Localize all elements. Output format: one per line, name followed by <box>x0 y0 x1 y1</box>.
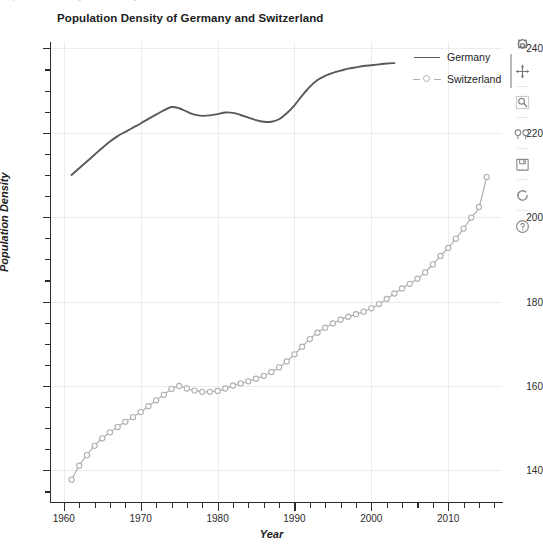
series-marker <box>430 262 435 267</box>
modebar-separator <box>517 179 528 180</box>
x-axis-line <box>50 502 503 503</box>
clipped-title-ghost: Population Density of Germany and Switze… <box>0 0 543 9</box>
y-tick-minor <box>45 259 51 260</box>
series-marker <box>130 415 135 420</box>
x-tick-major <box>218 503 219 511</box>
x-tick-label: 2010 <box>437 513 459 524</box>
series-marker <box>476 204 481 209</box>
x-tick-minor <box>417 503 418 508</box>
data-layer <box>50 42 502 502</box>
y-tick-minor <box>45 196 51 197</box>
series-marker <box>392 291 397 296</box>
help-icon[interactable] <box>510 214 534 238</box>
zoom-box-icon[interactable] <box>510 90 534 114</box>
series-line <box>72 177 487 480</box>
save-icon[interactable] <box>510 152 534 176</box>
series-marker <box>461 226 466 231</box>
chart-title: Population Density of Germany and Switze… <box>57 12 323 24</box>
clipped-title-ghost-text: Population Density of Germany and Switze… <box>0 0 212 1</box>
x-tick-label: 2000 <box>360 513 382 524</box>
legend: Germany Switzerland <box>413 46 505 90</box>
x-tick-minor <box>125 503 126 508</box>
legend-label-germany: Germany <box>441 51 490 63</box>
series-marker <box>292 352 297 357</box>
series-marker <box>192 388 197 393</box>
y-tick-minor <box>45 154 51 155</box>
series-marker <box>246 379 251 384</box>
zoom-in-out-icon[interactable] <box>510 121 534 145</box>
series-marker <box>330 321 335 326</box>
x-tick-major <box>448 503 449 511</box>
legend-item-switzerland[interactable]: Switzerland <box>413 68 505 90</box>
y-axis-title: Population Density <box>0 172 10 272</box>
x-tick-major <box>64 503 65 511</box>
modebar[interactable] <box>508 32 536 239</box>
x-tick-label: 1980 <box>206 513 228 524</box>
x-tick-minor <box>264 503 265 508</box>
legend-item-germany[interactable]: Germany <box>413 46 505 68</box>
y-tick-minor <box>45 91 51 92</box>
modebar-rail <box>510 54 512 88</box>
pan-icon[interactable] <box>510 59 534 83</box>
series-marker <box>100 436 105 441</box>
x-tick-major <box>294 503 295 511</box>
series-marker <box>207 389 212 394</box>
series-marker <box>453 236 458 241</box>
download-plot-icon[interactable] <box>510 33 534 57</box>
modebar-separator <box>517 117 528 118</box>
y-tick-minor <box>45 238 51 239</box>
plot-area[interactable] <box>50 42 502 502</box>
series-marker <box>77 463 82 468</box>
series-germany <box>72 63 395 175</box>
x-tick-minor <box>248 503 249 508</box>
x-tick-major <box>141 503 142 511</box>
x-tick-minor <box>95 503 96 508</box>
x-tick-minor <box>110 503 111 508</box>
series-marker <box>115 424 120 429</box>
modebar-separator <box>517 86 528 87</box>
y-tick-major <box>43 217 51 218</box>
series-marker <box>376 301 381 306</box>
legend-key-germany <box>413 50 441 64</box>
series-marker <box>138 410 143 415</box>
series-marker <box>269 369 274 374</box>
y-tick-major <box>43 470 51 471</box>
series-marker <box>384 296 389 301</box>
y-tick-minor <box>45 428 51 429</box>
series-marker <box>146 404 151 409</box>
series-marker <box>446 245 451 250</box>
x-tick-minor <box>187 503 188 508</box>
y-tick-minor <box>45 280 51 281</box>
x-tick-minor <box>494 503 495 508</box>
x-tick-minor <box>479 503 480 508</box>
series-marker <box>169 386 174 391</box>
series-marker <box>215 388 220 393</box>
series-marker <box>307 337 312 342</box>
series-marker <box>438 253 443 258</box>
series-marker <box>423 270 428 275</box>
series-marker <box>230 383 235 388</box>
series-marker <box>369 306 374 311</box>
x-tick-minor <box>156 503 157 508</box>
x-tick-minor <box>310 503 311 508</box>
y-tick-minor <box>45 365 51 366</box>
y-tick-label: 180 <box>505 296 543 307</box>
series-marker <box>92 443 97 448</box>
x-tick-minor <box>79 503 80 508</box>
series-marker <box>153 398 158 403</box>
x-tick-minor <box>387 503 388 508</box>
series-marker <box>338 317 343 322</box>
reset-axes-icon[interactable] <box>510 183 534 207</box>
series-marker <box>261 373 266 378</box>
series-marker <box>407 281 412 286</box>
y-tick-label: 160 <box>505 380 543 391</box>
series-marker <box>315 330 320 335</box>
legend-key-switzerland <box>413 72 441 86</box>
y-tick-minor <box>45 112 51 113</box>
x-tick-minor <box>172 503 173 508</box>
y-tick-minor <box>45 449 51 450</box>
series-marker <box>184 386 189 391</box>
series-marker <box>484 174 489 179</box>
chart-figure: Population Density of Germany and Switze… <box>0 0 543 556</box>
series-marker <box>353 312 358 317</box>
